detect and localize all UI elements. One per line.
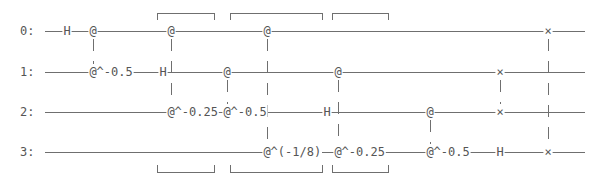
qubit-label: 1:	[20, 65, 34, 79]
controlled-phase-gate: @^-0.5	[223, 105, 266, 119]
swap-gate: ×	[496, 105, 503, 119]
verticals-layer	[94, 39, 549, 144]
control-dot: @	[426, 105, 433, 119]
swap-gate: ×	[496, 65, 503, 79]
hadamard-gate: H	[63, 24, 70, 38]
controlled-phase-gate: @^-0.5	[89, 65, 132, 79]
wires-layer	[45, 32, 585, 153]
labels-layer: 0:1:2:3:	[20, 24, 34, 159]
controlled-phase-gate: @^-0.25	[334, 145, 385, 159]
controlled-phase-gate: @^-0.5	[426, 145, 469, 159]
qubit-label: 3:	[20, 145, 34, 159]
qubit-label: 0:	[20, 24, 34, 38]
swap-gate: ×	[544, 145, 551, 159]
moment-group-3-top-bracket	[333, 14, 389, 21]
control-dot: @	[167, 24, 174, 38]
hadamard-gate: H	[496, 145, 503, 159]
control-dot: @	[263, 24, 270, 38]
moment-group-2-bottom-bracket	[231, 165, 323, 173]
controlled-phase-gate: @^-0.25	[167, 105, 218, 119]
gates-layer: H@@^-0.5H@@^-0.25@@^-0.5@@^(-1/8)H@@^-0.…	[62, 24, 552, 159]
moment-group-2-top-bracket	[231, 14, 323, 21]
hadamard-gate: H	[159, 65, 166, 79]
control-dot: @	[223, 65, 230, 79]
control-dot: @	[334, 65, 341, 79]
quantum-circuit-diagram: H@@^-0.5H@@^-0.25@@^-0.5@@^(-1/8)H@@^-0.…	[0, 0, 598, 184]
moment-group-1-bottom-bracket	[158, 165, 215, 173]
swap-gate: ×	[544, 24, 551, 38]
moment-group-1-top-bracket	[158, 14, 215, 21]
controlled-phase-gate: @^(-1/8)	[263, 145, 321, 159]
control-dot: @	[89, 24, 96, 38]
qubit-label: 2:	[20, 105, 34, 119]
moment-group-3-bottom-bracket	[333, 165, 389, 173]
hadamard-gate: H	[323, 105, 330, 119]
